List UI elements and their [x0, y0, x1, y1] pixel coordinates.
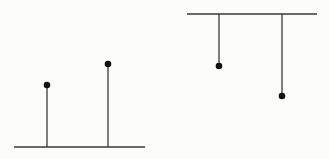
background [0, 0, 329, 159]
stem-dot [216, 63, 223, 70]
stem-dot [105, 61, 112, 68]
stem-dot [279, 93, 286, 100]
stem-dot [44, 82, 51, 89]
diagram-canvas [0, 0, 329, 159]
